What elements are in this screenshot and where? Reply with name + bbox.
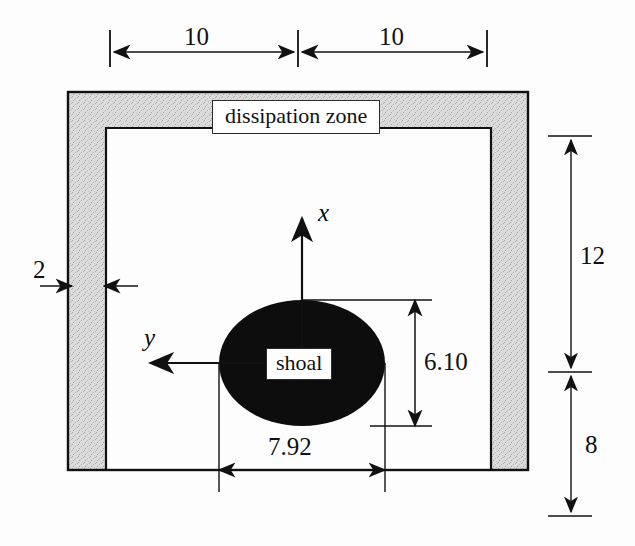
diagram-canvas <box>0 0 635 546</box>
top-dimension-group <box>110 30 487 67</box>
x-axis-label: x <box>318 200 329 225</box>
right-lower-span-label: 8 <box>585 432 598 457</box>
shoal-width-label: 7.92 <box>268 434 312 459</box>
right-dimension-group <box>548 136 592 516</box>
top-span-left-label: 10 <box>184 24 209 49</box>
shoal-label: shoal <box>266 348 332 380</box>
top-span-right-label: 10 <box>379 24 404 49</box>
left-band-thickness-label: 2 <box>33 257 46 282</box>
shoal-domain-diagram: 10 10 2 6.10 7.92 12 8 x y dissipation z… <box>0 0 635 546</box>
right-upper-span-label: 12 <box>580 243 605 268</box>
dissipation-zone-label: dissipation zone <box>212 100 380 134</box>
y-axis-label: y <box>144 325 155 350</box>
shoal-height-label: 6.10 <box>424 349 468 374</box>
